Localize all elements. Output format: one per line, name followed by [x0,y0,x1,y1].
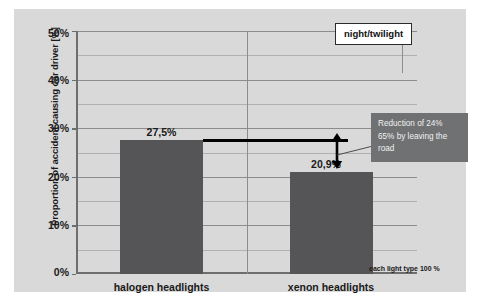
y-tick-label-50: 50% [48,27,69,39]
y-tick-label-30: 30% [48,122,69,134]
y-tick-40 [72,80,76,81]
bar-xenon-headlights[interactable] [290,172,373,274]
y-tick-label-10: 10% [48,219,69,231]
y-axis-line [76,31,78,274]
y-tick-50 [72,31,76,32]
footnote-text: each light type 100 % [369,265,440,272]
bar-label-halogen: 27,5% [147,126,177,138]
y-tick-20 [72,177,76,178]
plot-area: 50% 40% 30% 20% 10% 0% 27,5% 20,9% halog… [76,31,417,274]
chart-screenshot: Proportion of accident causing car drive… [0,0,480,301]
callout-line-1: Reduction of 24% [378,118,462,131]
y-tick-30 [72,128,76,129]
y-tick-label-40: 40% [48,74,69,86]
y-tick-label-0: 0% [54,266,69,278]
callout-line-2: 65% by leaving the [378,131,462,144]
bar-halogen-headlights[interactable] [120,140,203,274]
category-label-halogen: halogen headlights [114,281,210,293]
callout-line-3: road [378,143,462,156]
y-tick-10 [72,225,76,226]
category-divider [247,31,248,274]
reference-line-27-5 [203,139,348,141]
difference-arrow-icon [330,133,344,169]
y-tick-label-20: 20% [48,171,69,183]
y-tick-0 [72,274,76,275]
reduction-callout: Reduction of 24% 65% by leaving the road [371,113,468,162]
category-label-xenon: xenon headlights [288,281,374,293]
chart-title-box: night/twilight [335,23,412,45]
title-box-leader-line [402,45,403,73]
